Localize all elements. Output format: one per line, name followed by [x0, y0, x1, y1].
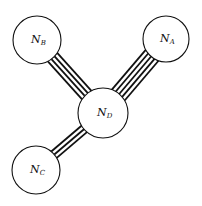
edge-line — [54, 129, 84, 154]
edge-c-d — [51, 126, 87, 158]
node-a: NA — [143, 16, 189, 62]
edge-line — [57, 132, 87, 158]
network-diagram: NANBNCND — [0, 0, 202, 206]
edge-line — [51, 126, 81, 152]
nodes: NANBNCND — [12, 16, 189, 194]
edge-b-d — [48, 53, 92, 99]
node-c: NC — [12, 146, 60, 194]
node-b: NB — [13, 16, 61, 64]
node-d: ND — [78, 88, 128, 138]
